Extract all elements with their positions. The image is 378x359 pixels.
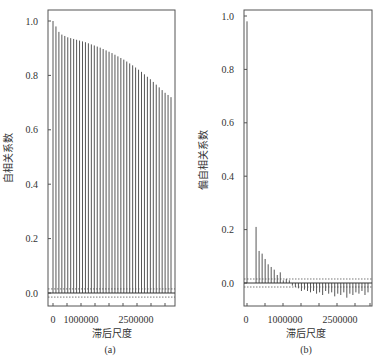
panel-b-pacf: 0.00.20.40.60.81.0 0 1000000 2500000 滞后尺…	[197, 10, 372, 356]
y-tick-label: 0.6	[26, 124, 39, 135]
y-axis-title-b: 偏自相关系数	[197, 130, 209, 190]
caption-b: (b)	[300, 344, 312, 356]
x-tick-b-2: 2500000	[323, 314, 358, 325]
panel-a-acf: 0.00.20.40.60.81.0 0 1000000 2500000 滞后尺…	[2, 10, 175, 356]
y-tick-label: 1.0	[222, 11, 235, 22]
y-tick-label: 0.4	[26, 179, 39, 190]
stem-series-a	[53, 21, 171, 293]
x-axis-title-b: 滞后尺度	[286, 327, 326, 339]
caption-a: (a)	[104, 344, 115, 356]
x-tick-b-1: 1000000	[268, 314, 303, 325]
x-tick-b-0: 0	[244, 314, 249, 325]
y-tick-label: 0.8	[222, 64, 235, 75]
y-tick-label: 0.2	[26, 233, 39, 244]
y-tick-label: 0.4	[222, 171, 235, 182]
y-tick-label: 1.0	[26, 16, 39, 27]
y-axis-title-a: 自相关系数	[2, 133, 14, 183]
x-axis-title-a: 滞后尺度	[92, 327, 132, 339]
x-tick-a-2: 2500000	[119, 314, 154, 325]
y-tick-label: 0.6	[222, 117, 235, 128]
y-tick-label: 0.0	[222, 278, 235, 289]
y-axis-a: 0.00.20.40.60.81.0	[26, 16, 52, 299]
y-axis-b: 0.00.20.40.60.81.0	[222, 11, 248, 289]
y-tick-label: 0.2	[222, 224, 235, 235]
y-tick-label: 0.8	[26, 70, 39, 81]
x-tick-a-0: 0	[51, 314, 56, 325]
y-tick-label: 0.0	[26, 288, 39, 299]
plot-frame-b	[244, 10, 372, 306]
x-tick-a-1: 1000000	[64, 314, 99, 325]
chart-figure: 0.00.20.40.60.81.0 0 1000000 2500000 滞后尺…	[0, 0, 378, 359]
stem-series-b	[247, 21, 368, 297]
